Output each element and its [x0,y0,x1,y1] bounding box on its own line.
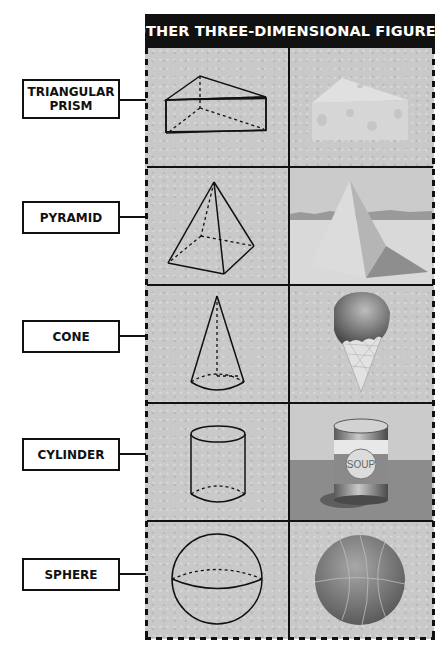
connector-line [120,573,146,575]
soup-can-image: SOUP [290,404,432,520]
desert-pyramid-image [290,168,432,284]
label-line: PRISM [49,99,92,113]
connector-line [120,335,146,337]
connector-line [120,99,146,101]
pyramid-drawing [148,168,288,284]
cheese-wedge-image [290,48,432,166]
label-cone: CONE [22,320,120,353]
table-title: OTHER THREE-DIMENSIONAL FIGURES [145,14,435,48]
label-line: SPHERE [44,568,97,582]
connector-line [120,453,146,455]
label-sphere: SPHERE [22,558,120,591]
label-cylinder: CYLINDER [22,438,120,471]
dashed-border-right [432,48,435,639]
label-line: CYLINDER [37,448,104,462]
label-pyramid: PYRAMID [22,201,120,234]
triangular-prism-drawing [148,48,288,166]
basketball-image [290,522,432,637]
sphere-drawing [148,522,288,637]
ice-cream-cone-image [290,286,432,402]
label-triangular-prism: TRIANGULAR PRISM [22,79,120,119]
cone-drawing [148,286,288,402]
dashed-border-bottom [145,637,435,640]
soup-label-text: SOUP [347,459,376,470]
label-line: CONE [52,330,89,344]
connector-line [120,216,146,218]
label-line: TRIANGULAR [28,85,115,99]
cylinder-drawing [148,404,288,520]
label-line: PYRAMID [40,211,102,225]
